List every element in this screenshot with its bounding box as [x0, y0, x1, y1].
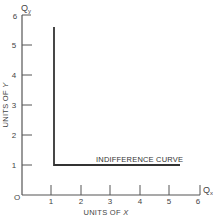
curve-label: INDIFFERENCE CURVE	[96, 155, 183, 164]
y-axis-title: UNITS OF Y	[1, 82, 10, 128]
x-axis-title: UNITS OF X	[83, 208, 129, 217]
origin-label: O	[14, 193, 20, 202]
x-tick-label-4: 4	[138, 197, 143, 206]
x-tick-label-3: 3	[108, 197, 113, 206]
y-ticks	[22, 45, 32, 165]
y-tick-label-2: 2	[12, 131, 17, 140]
x-tick-label-6: 6	[196, 197, 201, 206]
y-tick-label-1: 1	[12, 161, 17, 170]
qy-label: Qy	[21, 3, 31, 14]
qx-label: Qx	[203, 185, 213, 196]
x-tick-label-2: 2	[79, 197, 84, 206]
x-tick-label-1: 1	[49, 197, 54, 206]
x-tick-label-5: 5	[167, 197, 172, 206]
y-tick-label-5: 5	[12, 41, 17, 50]
indifference-curve	[54, 27, 180, 165]
y-tick-label-6: 6	[13, 12, 18, 21]
y-tick-label-3: 3	[12, 101, 17, 110]
indifference-curve-chart: 1 2 3 4 5 6 1 2 3 4 5 6 O Qy Qx UNITS OF…	[0, 0, 213, 222]
y-tick-label-4: 4	[12, 71, 17, 80]
x-ticks	[51, 185, 169, 195]
